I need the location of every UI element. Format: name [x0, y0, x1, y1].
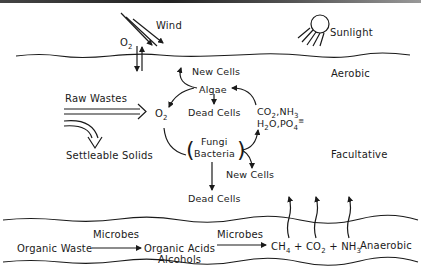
- wind-label: Wind: [156, 20, 182, 31]
- gases-label: CH4 + CO2 + NH3: [271, 241, 361, 252]
- microbes-label-1: Microbes: [93, 229, 139, 240]
- algae-new-cells-label: New Cells: [192, 66, 240, 77]
- zone-facultative: Facultative: [331, 149, 388, 160]
- sun-icon: [311, 15, 329, 33]
- zone-aerobic: Aerobic: [331, 68, 370, 79]
- microbes-label-2: Microbes: [217, 229, 263, 240]
- sunlight-label: Sunlight: [330, 27, 373, 38]
- zone-anaerobic: Anaerobic: [360, 240, 412, 251]
- algae-dead-cells-label: Dead Cells: [188, 107, 241, 118]
- bottom-line: [3, 257, 418, 265]
- fungi-label: Fungi: [201, 136, 228, 147]
- water-surface-line: [16, 53, 410, 58]
- alcohols-label: Alcohols: [158, 254, 201, 265]
- organic-waste-label: Organic Waste: [17, 243, 92, 254]
- nutrients-line1: CO2,NH3: [257, 106, 299, 117]
- svg-text:): ): [237, 137, 246, 162]
- oxygen-exchange-label: O2: [120, 37, 133, 48]
- nutrients-line2: H2O,PO4≡: [257, 118, 304, 129]
- settleable-solids-label: Settleable Solids: [66, 150, 153, 161]
- bacteria-dead-cells-label: Dead Cells: [188, 193, 241, 204]
- algae-label: Algae: [199, 84, 227, 95]
- organic-acids-label: Organic Acids: [144, 243, 215, 254]
- bacteria-label: Bacteria: [194, 148, 235, 159]
- raw-wastes-label: Raw Wastes: [65, 93, 127, 104]
- bacteria-new-cells-label: New Cells: [226, 169, 274, 180]
- oxygen-label: O2: [155, 108, 168, 119]
- sludge-top-line: [3, 215, 418, 223]
